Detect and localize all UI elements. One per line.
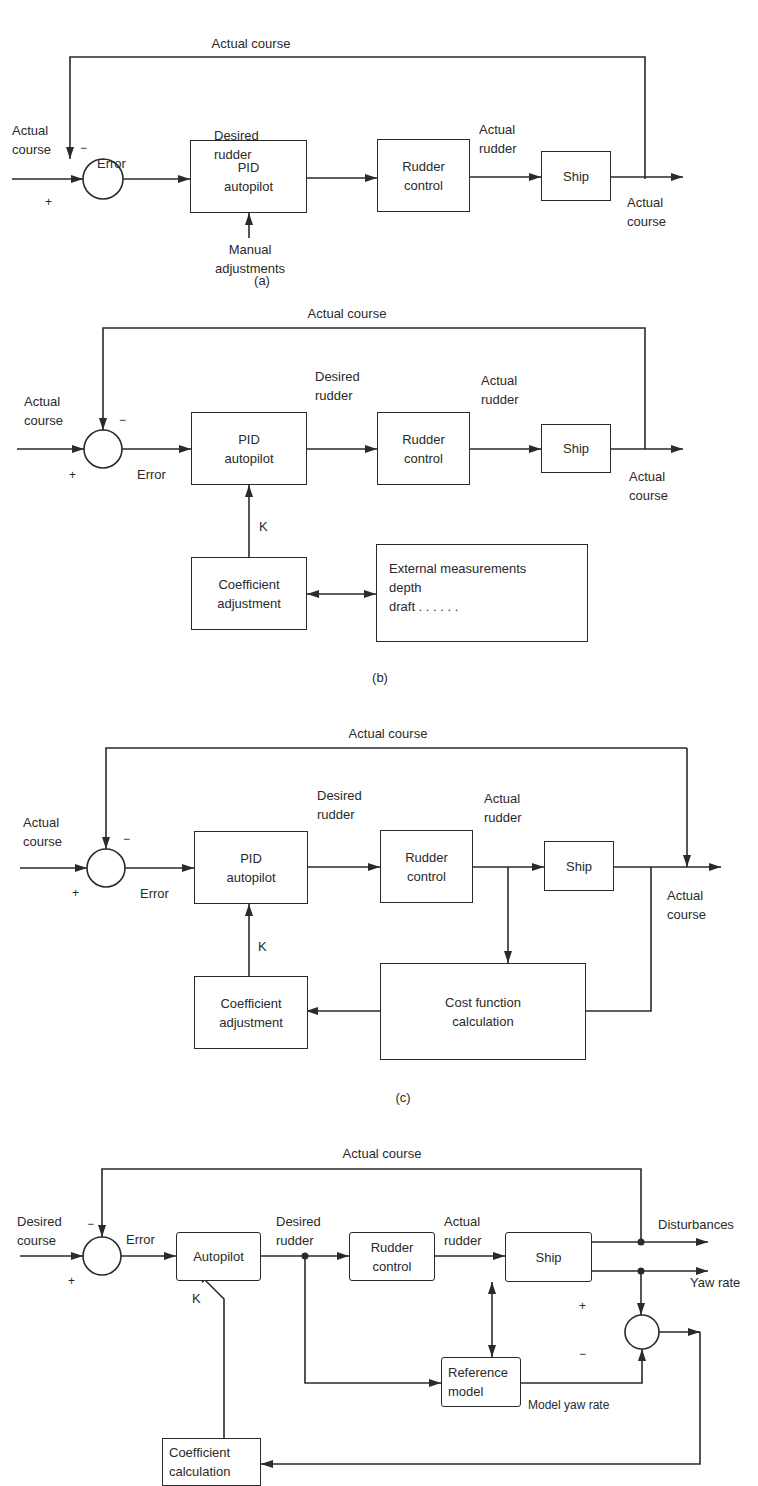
error-label-c: Error <box>140 884 169 903</box>
actual-rudder-label-a: Actual rudder <box>479 120 517 158</box>
summing-junction-c <box>87 849 125 887</box>
manual-adjustments-label: Manual adjustments <box>215 240 285 278</box>
reference-model-box: Reference model <box>441 1357 521 1407</box>
rudder-control-box-d: Rudder control <box>349 1232 435 1281</box>
error-label-a: Error <box>97 154 126 173</box>
desired-rudder-label-c: Desired rudder <box>317 786 362 824</box>
model-yaw-rate-label: Model yaw rate <box>528 1397 609 1414</box>
plus-sign-a: + <box>45 196 52 208</box>
cost-function-box: Cost function calculation <box>380 963 586 1060</box>
feedback-label-d: Actual course <box>343 1144 422 1163</box>
ship-box-a: Ship <box>541 151 611 201</box>
feedback-label-c: Actual course <box>349 724 428 743</box>
feedback-label-b: Actual course <box>308 304 387 323</box>
minus-sign-d: − <box>87 1218 94 1230</box>
input-label-d: Desired course <box>17 1212 62 1250</box>
k-label-b: K <box>259 517 268 536</box>
desired-rudder-label-b: Desired rudder <box>315 367 360 405</box>
feedback-label-a: Actual course <box>212 34 291 53</box>
junction-dot <box>638 1239 645 1246</box>
ship-box-d: Ship <box>505 1232 592 1282</box>
coefficient-adjustment-box-c: Coefficient adjustment <box>194 976 308 1049</box>
error-label-d: Error <box>126 1230 155 1249</box>
junction-dot <box>638 1268 645 1275</box>
junction-dot <box>302 1253 309 1260</box>
plus-sign-b: + <box>69 469 76 481</box>
sum2-plus-sign: + <box>579 1300 586 1312</box>
rudder-control-box-a: Rudder control <box>377 139 470 212</box>
sum2-minus-sign: − <box>579 1348 586 1360</box>
minus-sign-b: − <box>119 414 126 426</box>
pid-autopilot-box-c: PID autopilot <box>194 831 308 904</box>
ship-box-c: Ship <box>544 841 614 891</box>
input-label-a: Actual course <box>12 121 51 159</box>
rudder-control-box-b: Rudder control <box>377 412 470 485</box>
yaw-rate-label: Yaw rate <box>690 1273 740 1292</box>
input-label-b: Actual course <box>24 392 63 430</box>
external-measurements-box: External measurements depth draft . . . … <box>376 544 588 642</box>
output-label-a: Actual course <box>627 193 666 231</box>
output-label-c: Actual course <box>667 886 706 924</box>
autopilot-box-d: Autopilot <box>176 1232 261 1281</box>
caption-c: (c) <box>395 1090 410 1105</box>
actual-rudder-label-d: Actual rudder <box>444 1212 482 1250</box>
minus-sign-a: − <box>80 142 87 154</box>
summing-junction-d2 <box>625 1315 659 1349</box>
k-label-d: K <box>192 1289 201 1308</box>
actual-rudder-label-c: Actual rudder <box>484 789 522 827</box>
coefficient-adjustment-box-b: Coefficient adjustment <box>191 557 307 630</box>
summing-junction-b <box>84 430 122 468</box>
minus-sign-c: − <box>123 833 130 845</box>
plus-sign-d: + <box>68 1275 75 1287</box>
caption-a: (a) <box>254 273 270 288</box>
disturbances-label: Disturbances <box>658 1215 734 1234</box>
error-label-b: Error <box>137 465 166 484</box>
ship-box-b: Ship <box>541 424 611 473</box>
summing-junction-d <box>83 1237 121 1275</box>
adaptive-autopilot-diagrams: Actual course Actual course − + Error PI… <box>0 0 758 1486</box>
desired-rudder-label-d: Desired rudder <box>276 1212 321 1250</box>
coefficient-calculation-box: Coefficient calculation <box>162 1438 261 1486</box>
desired-rudder-label-a: Desired rudder <box>214 126 259 164</box>
actual-rudder-label-b: Actual rudder <box>481 371 519 409</box>
output-label-b: Actual course <box>629 467 668 505</box>
plus-sign-c: + <box>72 887 79 899</box>
caption-b: (b) <box>372 670 388 685</box>
k-label-c: K <box>258 937 267 956</box>
input-label-c: Actual course <box>23 813 62 851</box>
pid-autopilot-box-b: PID autopilot <box>191 412 307 485</box>
rudder-control-box-c: Rudder control <box>380 830 473 903</box>
